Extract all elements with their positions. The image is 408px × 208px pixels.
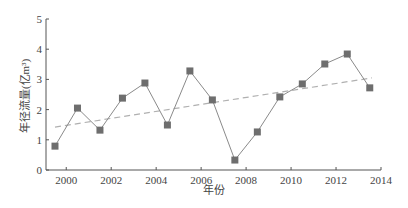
square-marker-icon bbox=[209, 96, 216, 103]
square-marker-icon bbox=[231, 157, 238, 164]
y-axis-label: 年径流量(亿m³) bbox=[18, 59, 32, 134]
square-marker-icon bbox=[321, 60, 328, 67]
y-tick-label: 2 bbox=[37, 104, 43, 116]
y-tick-label: 3 bbox=[37, 73, 43, 85]
square-marker-icon bbox=[96, 127, 103, 134]
square-marker-icon bbox=[74, 105, 81, 112]
x-tick-label: 2004 bbox=[145, 174, 168, 186]
x-tick-label: 2014 bbox=[370, 174, 393, 186]
x-tick-label: 2000 bbox=[55, 174, 78, 186]
y-tick-label: 5 bbox=[37, 13, 43, 25]
square-marker-icon bbox=[164, 122, 171, 129]
x-tick-label: 2008 bbox=[235, 174, 258, 186]
square-marker-icon bbox=[344, 51, 351, 58]
runoff-chart: 01234520002002200420062008201020122014 年… bbox=[0, 0, 408, 208]
square-marker-icon bbox=[119, 95, 126, 102]
x-tick-label: 2012 bbox=[325, 174, 347, 186]
square-marker-icon bbox=[254, 128, 261, 135]
square-marker-icon bbox=[186, 67, 193, 74]
x-axis-label: 年份 bbox=[203, 183, 225, 196]
y-tick-label: 4 bbox=[37, 43, 43, 55]
square-marker-icon bbox=[276, 93, 283, 100]
square-marker-icon bbox=[51, 143, 58, 150]
square-marker-icon bbox=[366, 84, 373, 91]
x-tick-label: 2002 bbox=[100, 174, 122, 186]
y-tick-label: 1 bbox=[37, 134, 43, 146]
x-tick-label: 2010 bbox=[280, 174, 303, 186]
data-series bbox=[51, 51, 373, 164]
square-marker-icon bbox=[299, 80, 306, 87]
runoff-line bbox=[55, 54, 370, 160]
y-tick-label: 0 bbox=[37, 164, 43, 176]
square-marker-icon bbox=[141, 80, 148, 87]
